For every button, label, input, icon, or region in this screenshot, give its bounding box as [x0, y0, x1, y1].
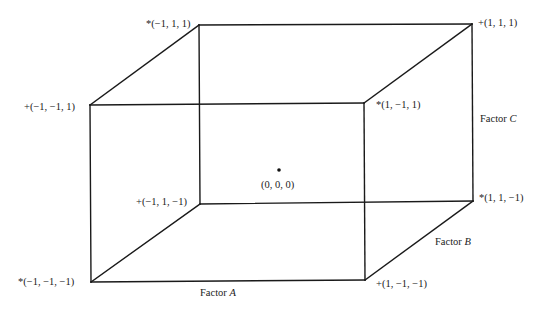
edge-back-right	[472, 24, 473, 201]
back-face	[199, 24, 473, 204]
vertex-label-p1-m1-p1: *(1, −1, 1)	[376, 99, 421, 111]
edge-depth-top-left	[90, 25, 199, 105]
vertex-label-p1-p1-p1: +(1, 1, 1)	[478, 17, 518, 29]
vertex-label-m1-m1-p1: +(−1, −1, 1)	[24, 101, 76, 113]
edge-front-left	[90, 105, 91, 282]
center-point-label: (0, 0, 0)	[261, 179, 295, 191]
axis-label-factor-a: Factor A	[200, 287, 236, 298]
vertex-label-p1-m1-m1: +(1, −1, −1)	[376, 278, 428, 290]
vertex-label-m1-p1-m1: +(−1, 1, −1)	[136, 196, 188, 208]
vertex-label-m1-m1-m1: *(−1, −1, −1)	[18, 276, 75, 288]
front-face	[90, 103, 365, 282]
edge-front-bottom	[91, 280, 365, 282]
edge-back-left	[199, 25, 200, 204]
axis-label-factor-b: Factor B	[435, 236, 471, 247]
edge-back-top	[199, 24, 472, 25]
vertex-label-p1-p1-m1: *(1, 1, −1)	[479, 192, 524, 204]
axis-label-factor-c: Factor C	[480, 113, 517, 124]
axis-label-factor-a-text: Factor	[200, 287, 229, 298]
axis-label-factor-c-text: Factor	[480, 113, 509, 124]
edge-depth-bottom-left	[91, 204, 200, 282]
axis-label-factor-a-var: A	[228, 287, 236, 298]
factorial-cube-diagram: (0, 0, 0) *(−1, 1, 1) +(1, 1, 1) +(−1, −…	[0, 0, 543, 313]
axis-label-factor-b-text: Factor	[435, 236, 464, 247]
vertex-label-m1-p1-p1: *(−1, 1, 1)	[146, 18, 191, 30]
edge-front-right	[364, 103, 365, 280]
axis-label-factor-b-var: B	[464, 236, 471, 247]
edge-back-bottom	[200, 201, 473, 204]
edge-front-top	[90, 103, 364, 105]
depth-edges	[90, 24, 473, 282]
axis-label-factor-c-var: C	[509, 113, 517, 124]
edge-depth-top-right	[364, 24, 472, 103]
center-point-dot	[277, 168, 281, 172]
